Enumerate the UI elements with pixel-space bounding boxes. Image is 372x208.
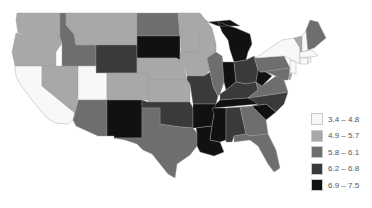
legend-label: 6.9 – 7.5 [328,181,359,190]
state-nj [290,60,296,74]
state-nm [107,100,142,138]
state-wa [16,13,60,38]
state-az [73,100,107,136]
legend-label: 4.9 – 5.7 [328,131,359,140]
legend-swatch [311,163,323,175]
legend-item: 5.8 – 6.1 [311,146,359,158]
legend-item: 3.4 – 4.8 [311,113,359,125]
state-ct [300,58,308,64]
legend-swatch [311,146,323,158]
legend-item: 6.2 – 6.8 [311,163,359,175]
legend-swatch [311,113,323,125]
state-nd [137,13,180,36]
legend-swatch [311,130,323,142]
legend-label: 3.4 – 4.8 [328,115,359,124]
state-co [107,73,148,100]
legend-label: 5.8 – 6.1 [328,148,359,157]
state-sd [137,36,180,60]
state-mt [66,13,137,45]
state-fl [234,134,280,172]
state-ri [308,58,311,63]
legend-item: 6.9 – 7.5 [311,179,359,191]
legend-item: 4.9 – 5.7 [311,130,359,142]
legend-swatch [311,179,323,191]
legend: 3.4 – 4.8 4.9 – 5.7 5.8 – 6.1 6.2 – 6.8 … [311,113,359,196]
state-or [12,33,62,66]
legend-label: 6.2 – 6.8 [328,164,359,173]
state-ks [148,80,190,102]
state-me [306,20,326,50]
state-wy [96,45,137,73]
